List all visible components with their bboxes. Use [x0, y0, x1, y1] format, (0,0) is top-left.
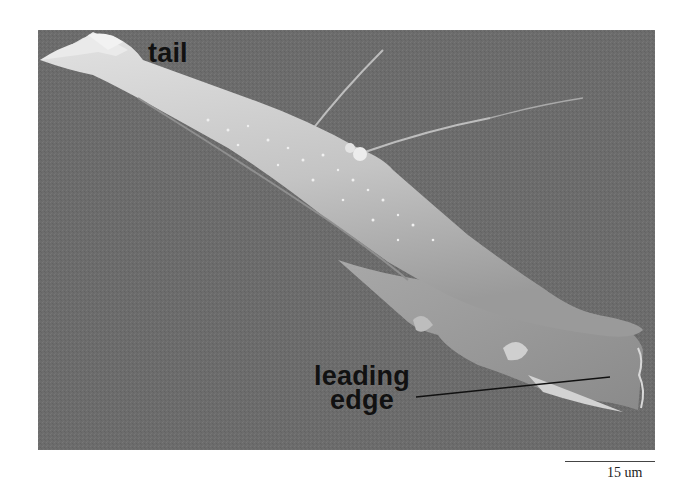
sem-micrograph: tail leading edge	[38, 30, 655, 450]
scale-bar-label: 15 um	[607, 465, 642, 481]
scale-bar	[565, 461, 655, 462]
figure: tail leading edge 15 um	[0, 0, 689, 482]
tail-label: tail	[148, 40, 188, 67]
leading-edge-label: leading edge	[307, 364, 417, 412]
leading-edge-label-line2: edge	[307, 388, 417, 412]
